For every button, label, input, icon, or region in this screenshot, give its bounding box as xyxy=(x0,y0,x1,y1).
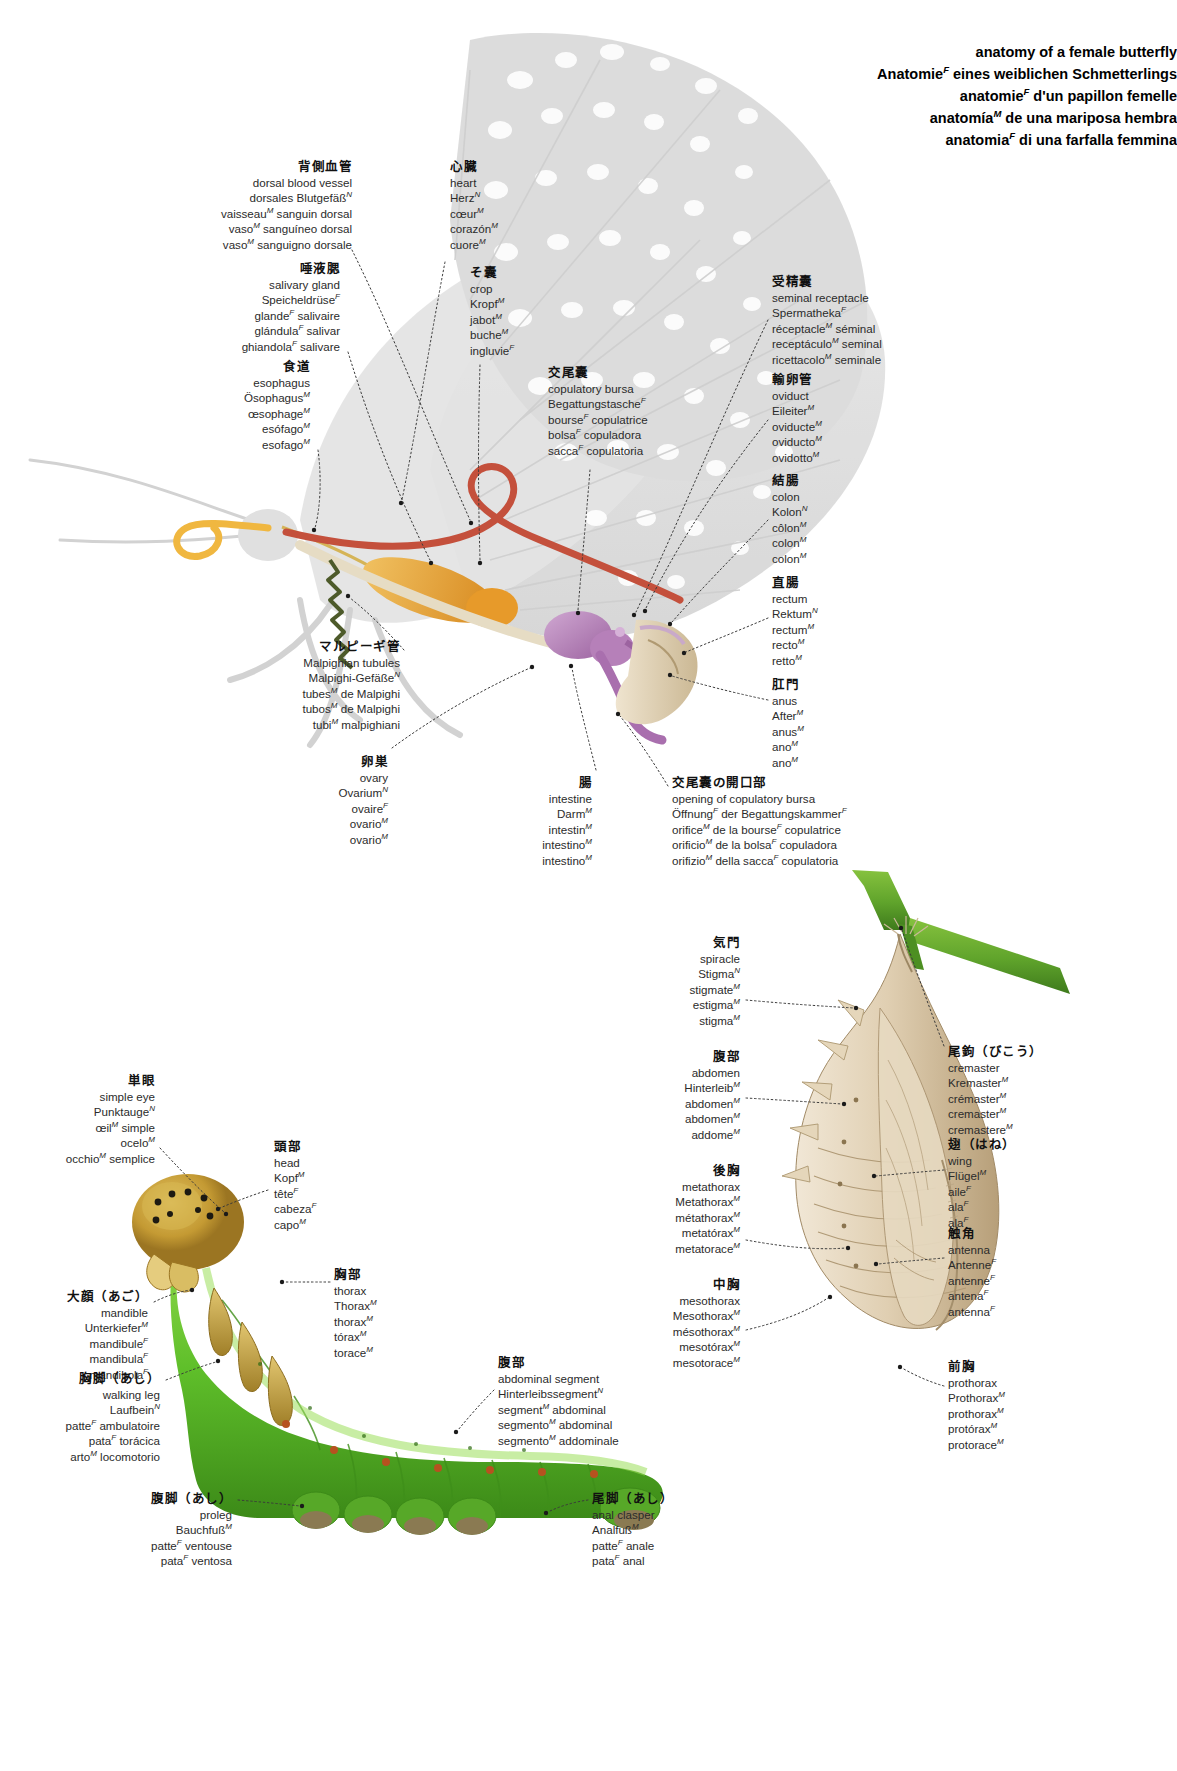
label-term-ja: 触角 xyxy=(948,1227,996,1243)
label-term-line: mesothorax xyxy=(673,1294,740,1309)
label-term-line: antennaF xyxy=(948,1304,996,1319)
label-term-line: KolonN xyxy=(772,504,807,519)
label-term-line: tubosM de Malpighi xyxy=(302,701,400,716)
label-term-ja: 胸脚（あし） xyxy=(66,1372,161,1388)
label-term-line: cremasterM xyxy=(948,1106,1043,1121)
label-term-line: prothorax xyxy=(948,1376,1005,1391)
label-term-line: oviduct xyxy=(772,389,822,404)
label-term-line: dorsal blood vessel xyxy=(221,176,352,191)
title-line-es: anatomíaM de una mariposa hembra xyxy=(877,107,1177,129)
label-term-line: intestinM xyxy=(542,822,592,837)
label-term-line: cuoreM xyxy=(450,237,498,252)
label-term-line: antenna xyxy=(948,1243,996,1258)
label-anus: 肛門anusAfterManusManoManoM xyxy=(772,678,804,770)
label-term-line: mesotoraceM xyxy=(673,1355,740,1370)
label-esophagus: 食道esophagusÖsophagusMœsophageMesófagoMes… xyxy=(244,360,310,452)
label-term-line: pataF ventosa xyxy=(151,1553,232,1568)
label-term-ja: そ囊 xyxy=(470,266,514,282)
label-term-line: ovarioM xyxy=(338,832,388,847)
label-term-line: ricettacoloM seminale xyxy=(772,352,882,367)
label-term-line: côlonM xyxy=(772,520,807,535)
label-term-line: esofagoM xyxy=(244,437,310,452)
label-term-line: heart xyxy=(450,176,498,191)
label-wing: 翅（はね）wingFlügelMaileFalaFalaF xyxy=(948,1138,1016,1230)
label-term-line: bourseF copulatrice xyxy=(548,412,648,427)
label-term-line: mésothoraxM xyxy=(673,1324,740,1339)
label-term-line: MesothoraxM xyxy=(673,1308,740,1323)
label-term-line: corazónM xyxy=(450,221,498,236)
label-term-ja: 直腸 xyxy=(772,576,818,592)
label-term-line: rectoM xyxy=(772,637,818,652)
label-term-line: oviducteM xyxy=(772,419,822,434)
label-term-line: orifizioM della saccaF copulatoria xyxy=(672,853,847,868)
label-term-line: rectum xyxy=(772,592,818,607)
label-term-line: ghiandolaF salivare xyxy=(242,339,340,354)
label-term-line: StigmaN xyxy=(690,966,741,981)
label-term-line: intestinoM xyxy=(542,837,592,852)
label-term-line: rettoM xyxy=(772,653,818,668)
label-ovary: 卵巣ovaryOvariumNovaireFovarioMovarioM xyxy=(338,755,388,847)
label-term-ja: 心臓 xyxy=(450,160,498,176)
label-term-line: KopfM xyxy=(274,1170,316,1185)
label-term-line: colonM xyxy=(772,551,807,566)
label-term-line: opening of copulatory bursa xyxy=(672,792,847,807)
label-term-line: protóraxM xyxy=(948,1421,1005,1436)
label-term-line: colonM xyxy=(772,535,807,550)
label-term-line: segmentoM addominale xyxy=(498,1433,619,1448)
label-abdominal-segment: 腹部abdominal segmentHinterleibssegmentNse… xyxy=(498,1356,619,1448)
label-intestine: 腸intestineDarmMintestinMintestinoMintest… xyxy=(542,776,592,868)
label-term-line: tubesM de Malpighi xyxy=(302,686,400,701)
label-term-ja: 中胸 xyxy=(673,1278,740,1294)
label-term-line: copulatory bursa xyxy=(548,382,648,397)
label-term-line: salivary gland xyxy=(242,278,340,293)
label-term-line: saccaF copulatoria xyxy=(548,443,648,458)
label-term-line: metatoraceM xyxy=(675,1241,740,1256)
label-term-line: stigmateM xyxy=(690,982,741,997)
label-term-ja: 結腸 xyxy=(772,474,807,490)
label-term-line: crémasterM xyxy=(948,1091,1043,1106)
label-term-line: mandible xyxy=(67,1306,148,1321)
title-line-de: AnatomieF eines weiblichen Schmetterling… xyxy=(877,63,1177,85)
label-term-line: cabezaF xyxy=(274,1201,316,1216)
label-term-line: KropfM xyxy=(470,296,514,311)
label-term-line: thorax xyxy=(334,1284,377,1299)
label-term-line: tubiM malpighiani xyxy=(302,717,400,732)
title-line-it: anatomiaF di una farfalla femmina xyxy=(877,129,1177,151)
label-term-line: ovidottoM xyxy=(772,450,822,465)
label-term-line: jabotM xyxy=(470,312,514,327)
label-term-ja: 輸卵管 xyxy=(772,373,822,389)
label-term-ja: 腹部 xyxy=(498,1356,619,1372)
label-term-line: ovaireF xyxy=(338,801,388,816)
label-thorax: 胸部thoraxThoraxMthoraxMtóraxMtoraceM xyxy=(334,1268,377,1360)
label-term-line: antenneF xyxy=(948,1273,996,1288)
label-spiracle: 気門spiracleStigmaNstigmateMestigmaMstigma… xyxy=(690,936,741,1028)
label-term-line: bolsaF copuladora xyxy=(548,427,648,442)
label-term-line: LaufbeinN xyxy=(66,1402,161,1417)
label-term-line: Malpighian tubules xyxy=(302,656,400,671)
label-term-line: patteF anale xyxy=(592,1538,673,1553)
label-term-line: abdominal segment xyxy=(498,1372,619,1387)
label-oviduct: 輸卵管oviductEileiterMoviducteMoviductoMovi… xyxy=(772,373,822,465)
label-term-ja: 胸部 xyxy=(334,1268,377,1284)
label-term-line: anoM xyxy=(772,739,804,754)
label-mesothorax: 中胸mesothoraxMesothoraxMmésothoraxMmesotó… xyxy=(673,1278,740,1370)
label-prothorax: 前胸prothoraxProthoraxMprothoraxMprotóraxM… xyxy=(948,1360,1005,1452)
label-term-line: rectumM xyxy=(772,622,818,637)
label-term-line: addomeM xyxy=(684,1127,740,1142)
label-term-line: thoraxM xyxy=(334,1314,377,1329)
label-term-line: BauchfußM xyxy=(151,1522,232,1537)
label-term-line: vasoM sanguíneo dorsal xyxy=(221,221,352,236)
label-term-line: capoM xyxy=(274,1217,316,1232)
label-term-line: ovary xyxy=(338,771,388,786)
label-term-line: HerzN xyxy=(450,190,498,205)
label-term-line: mesotóraxM xyxy=(673,1339,740,1354)
label-heart: 心臓heartHerzNcœurMcorazónMcuoreM xyxy=(450,160,498,252)
label-term-line: abdomenM xyxy=(684,1096,740,1111)
label-term-line: œilM simple xyxy=(66,1120,155,1135)
label-term-line: simple eye xyxy=(66,1090,155,1105)
label-term-line: wing xyxy=(948,1154,1016,1169)
label-opening-of-copulatory-bursa: 交尾囊の開口部opening of copulatory bursaÖffnun… xyxy=(672,776,847,868)
label-term-ja: 単眼 xyxy=(66,1074,155,1090)
label-anal-clasper: 尾脚（あし）anal clasperAnalfußMpatteF analepa… xyxy=(592,1492,673,1569)
